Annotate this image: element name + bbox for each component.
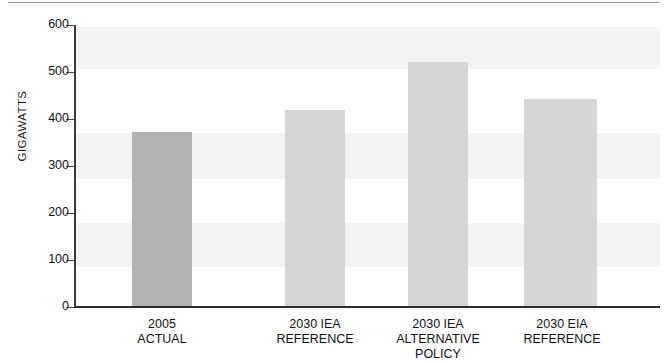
x-axis-line xyxy=(74,306,660,308)
plot-area: 600 500 400 300 200 100 0 xyxy=(74,25,660,307)
y-tick-label: 300 xyxy=(48,158,69,172)
y-axis-line xyxy=(74,25,76,307)
y-axis-title: GIGAWATTS xyxy=(16,66,28,186)
x-label-2030-iea-reference: 2030 IEA REFERENCE xyxy=(255,317,375,347)
y-tick-label: 100 xyxy=(48,252,69,266)
y-tick-label: 600 xyxy=(48,17,69,31)
x-label-2030-iea-alt-policy: 2030 IEA ALTERNATIVE POLICY xyxy=(374,317,502,362)
bar-2005-actual[interactable] xyxy=(132,132,192,306)
y-tick-label: 200 xyxy=(48,205,69,219)
y-tick-label: 500 xyxy=(48,64,69,78)
bar-2030-iea-reference[interactable] xyxy=(285,110,345,306)
scan-band xyxy=(74,27,660,69)
bar-chart-figure: GIGAWATTS 600 500 400 300 200 xyxy=(0,0,667,363)
y-tick-label: 0 xyxy=(62,299,69,313)
x-label-2005-actual: 2005 ACTUAL xyxy=(102,317,222,347)
page-top-rule xyxy=(8,2,659,3)
x-label-2030-eia-reference: 2030 EIA REFERENCE xyxy=(502,317,622,347)
y-tick-label: 400 xyxy=(48,111,69,125)
bar-2030-eia-reference[interactable] xyxy=(524,99,597,306)
bar-2030-iea-alt-policy[interactable] xyxy=(408,62,468,306)
